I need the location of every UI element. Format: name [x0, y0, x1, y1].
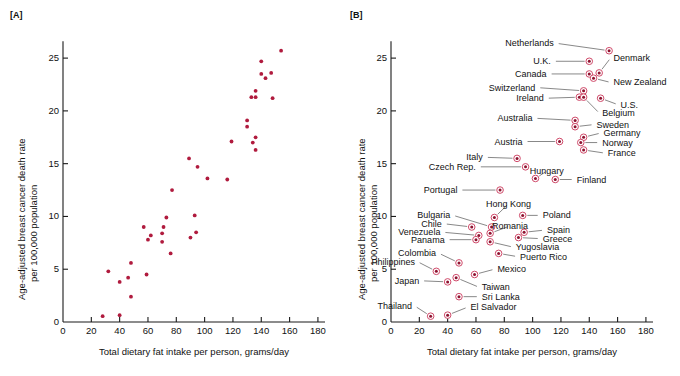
data-point [160, 231, 164, 235]
panel-b-xtick-100: 100 [521, 325, 545, 336]
data-point [608, 49, 611, 52]
data-point [579, 141, 582, 144]
panel-b-xtick-0: 0 [379, 325, 403, 336]
country-label-norway: Norway [602, 138, 633, 148]
country-label-belgium: Belgium [602, 108, 635, 118]
data-point [101, 314, 105, 318]
data-point [162, 225, 166, 229]
country-label-portugal: Portugal [424, 185, 458, 195]
leader-line [529, 230, 542, 231]
country-label-switzerland: Switzerland [489, 83, 536, 93]
country-label-austria: Austria [495, 137, 523, 147]
leader-line [580, 125, 592, 126]
data-point [588, 72, 591, 75]
data-point [259, 72, 263, 76]
data-point [435, 270, 438, 273]
data-point [118, 313, 122, 317]
panel-a-xtick-140: 140 [249, 325, 273, 336]
data-point [194, 230, 198, 234]
leader-line [549, 97, 575, 98]
data-point [254, 89, 258, 93]
leader-line [588, 151, 603, 153]
data-point [129, 261, 133, 265]
country-label-australia: Australia [497, 113, 532, 123]
data-point [473, 273, 476, 276]
data-point [455, 276, 458, 279]
panel-b-xtick-140: 140 [577, 325, 601, 336]
panel-a-xtick-0: 0 [51, 325, 75, 336]
country-label-hungary: Hungary [530, 166, 564, 176]
panel-a-xtick-20: 20 [79, 325, 103, 336]
data-point [474, 238, 477, 241]
data-point [245, 125, 249, 129]
country-label-yugoslavia: Yugoslavia [516, 242, 560, 252]
data-point [206, 177, 210, 181]
panel-a-xtick-100: 100 [193, 325, 217, 336]
data-point [592, 77, 595, 80]
leader-line [605, 100, 616, 104]
data-point [599, 97, 602, 100]
data-point [558, 140, 561, 143]
leader-line [452, 308, 466, 313]
leader-line [559, 44, 605, 50]
country-label-thailand: Thailand [378, 301, 413, 311]
leader-line [540, 88, 579, 91]
country-label-new-zealand: New Zealand [614, 77, 667, 87]
panel-b: [B] Age-adjusted breast cancer death rat… [340, 0, 680, 376]
data-point [493, 216, 496, 219]
leader-line [488, 157, 513, 158]
panel-a-xtick-120: 120 [221, 325, 245, 336]
panel-a-ytick-10: 10 [39, 210, 59, 221]
leader-line [460, 279, 477, 286]
data-point [457, 295, 460, 298]
data-point [160, 240, 164, 244]
data-point [249, 95, 253, 99]
data-point [279, 49, 283, 53]
panel-b-xtick-40: 40 [436, 325, 460, 336]
country-label-ireland: Ireland [516, 93, 544, 103]
data-point [524, 165, 527, 168]
data-point [523, 231, 526, 234]
panel-a-ytick-20: 20 [39, 105, 59, 116]
data-point [149, 234, 153, 238]
leader-line [598, 79, 609, 82]
data-point [118, 280, 122, 284]
panel-a: [A] Age-adjusted breast cancer death rat… [0, 0, 340, 376]
country-label-u-k: U.K. [533, 56, 551, 66]
data-point [582, 96, 585, 99]
leader-line [441, 254, 455, 261]
panel-b-xtick-180: 180 [634, 325, 658, 336]
country-label-czech-rep: Czech Rep. [429, 162, 476, 172]
panel-b-xtick-120: 120 [549, 325, 573, 336]
data-point [164, 216, 168, 220]
panel-a-ytick-5: 5 [39, 263, 59, 274]
country-label-romania: Romania [492, 221, 528, 231]
panel-b-ytick-20: 20 [367, 105, 387, 116]
country-label-panama: Panama [411, 235, 445, 245]
country-label-canada: Canada [515, 69, 547, 79]
country-label-philippines: Philippines [371, 257, 415, 267]
data-point [499, 189, 502, 192]
data-point [264, 76, 268, 80]
data-point [259, 59, 263, 63]
country-label-poland: Poland [543, 210, 571, 220]
data-point [169, 251, 173, 255]
data-point [196, 165, 200, 169]
country-label-netherlands: Netherlands [505, 38, 554, 48]
country-label-el-salvador: El Salvador [470, 302, 516, 312]
data-point [129, 295, 133, 299]
data-point [193, 213, 197, 217]
data-point [170, 188, 174, 192]
data-point [189, 236, 193, 240]
data-point [254, 95, 258, 99]
data-point [574, 125, 577, 128]
leader-line [495, 243, 511, 247]
data-point [145, 273, 149, 277]
data-point [588, 60, 591, 63]
data-point [251, 141, 255, 145]
country-label-taiwan: Taiwan [482, 282, 510, 292]
country-label-finland: Finland [577, 175, 607, 185]
country-label-germany: Germany [604, 128, 641, 138]
data-point [582, 148, 585, 151]
data-point [146, 238, 150, 242]
